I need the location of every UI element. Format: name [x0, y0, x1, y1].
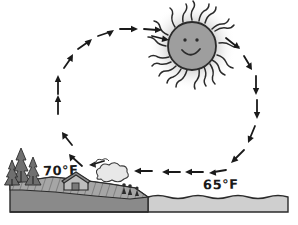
arrow-breeze-3 [162, 169, 180, 175]
pine-trees [5, 148, 42, 186]
arrow-rising-2 [55, 75, 61, 94]
arrow-rising-1 [55, 95, 61, 114]
sun-icon [148, 1, 239, 90]
arrow-upleft-2 [78, 39, 92, 49]
arrow-sinking-4 [231, 150, 244, 163]
land-temperature-label: 70°F [43, 162, 79, 178]
arrow-sinking-3 [248, 126, 255, 143]
arrow-breeze-2 [185, 169, 203, 175]
arrow-breeze-4 [134, 168, 152, 174]
arrow-upleft-3 [98, 30, 114, 37]
arrow-sinking-1 [253, 76, 259, 95]
arrow-upleft-1 [64, 54, 73, 68]
arrow-sinking-2 [254, 100, 260, 119]
water-temperature-label: 65°F [203, 177, 239, 193]
water-surface [148, 196, 288, 213]
arrow-lowleft-2 [62, 132, 72, 145]
sun-eye-right [195, 38, 198, 41]
sun-face [168, 22, 216, 70]
arrow-breeze-1 [209, 169, 226, 175]
diagram-canvas [0, 0, 298, 225]
barn-door [72, 183, 79, 190]
sun-eye-left [183, 38, 186, 41]
water-body [148, 196, 288, 213]
arrow-top-1 [120, 26, 138, 32]
arrow-upright-2 [244, 56, 252, 70]
sea-breeze-diagram: 70°F 65°F [0, 0, 298, 225]
